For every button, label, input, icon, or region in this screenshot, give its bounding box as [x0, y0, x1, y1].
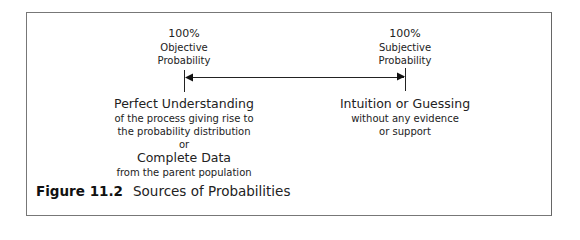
left-desc-3: from the parent population	[116, 166, 251, 179]
right-label-line2: Probability	[379, 54, 432, 67]
left-label-line2: Probability	[158, 54, 211, 67]
right-label-line1: Subjective	[379, 41, 431, 54]
left-desc-1: of the process giving rise to	[114, 112, 253, 125]
figure-number: Figure 11.2	[36, 183, 123, 199]
continuum-line	[186, 77, 404, 78]
left-heading: Perfect Understanding	[114, 96, 254, 111]
right-tick	[405, 68, 406, 91]
right-heading: Intuition or Guessing	[340, 96, 470, 111]
figure-title: Sources of Probabilities	[133, 183, 290, 199]
left-desc-2: the probability distribution	[117, 125, 250, 138]
left-label-line1: Objective	[160, 41, 207, 54]
left-percent: 100%	[168, 27, 199, 40]
right-desc-2: or support	[379, 125, 431, 138]
right-percent: 100%	[389, 27, 420, 40]
arrow-right-icon	[396, 72, 405, 81]
right-desc-1: without any evidence	[351, 112, 459, 125]
left-heading-2: Complete Data	[137, 150, 231, 165]
arrow-left-icon	[185, 73, 194, 82]
